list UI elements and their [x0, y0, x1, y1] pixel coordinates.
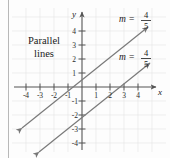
y-axis-label: y [71, 9, 76, 19]
y-tick-label: -3 [72, 125, 78, 134]
x-tick-label: 2 [108, 91, 112, 100]
y-tick-label: 1 [72, 69, 76, 78]
y-tick-label: 2 [72, 55, 76, 64]
x-tick-label: -3 [37, 91, 43, 100]
x-axis-label: x [157, 87, 162, 97]
y-tick-label: -4 [72, 139, 78, 148]
parallel-lines-figure: -4 -3 -2 -1 1 2 3 4 4 3 2 1 -1 -2 -3 -4 … [0, 0, 170, 158]
caption-line-2: lines [34, 48, 54, 59]
slope-variable: m [119, 14, 126, 24]
x-tick-label: -1 [65, 91, 71, 100]
slope-equals: = [129, 14, 134, 24]
slope-equals: = [129, 52, 134, 62]
y-tick-label: -2 [72, 111, 78, 120]
y-tick-label: 4 [72, 27, 76, 36]
x-tick-label: -2 [51, 91, 57, 100]
x-tick-label: -4 [23, 91, 29, 100]
slope-denominator: 5 [144, 59, 148, 69]
y-tick-label: -1 [72, 97, 78, 106]
x-tick-label: 1 [94, 91, 98, 100]
slope-variable: m [119, 52, 126, 62]
y-tick-label: 3 [72, 41, 76, 50]
x-tick-label: 4 [136, 91, 140, 100]
x-tick-label: 3 [122, 91, 126, 100]
slope-denominator: 5 [144, 21, 148, 31]
caption-line-1: Parallel [28, 35, 60, 46]
